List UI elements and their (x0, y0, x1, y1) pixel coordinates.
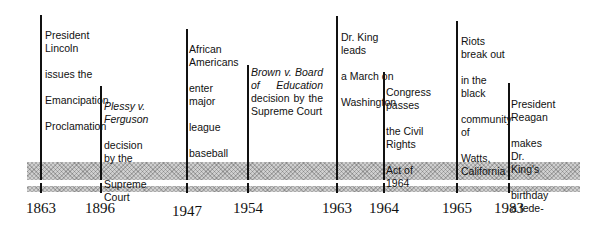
event-stem (186, 29, 188, 180)
label-line: Act of 1964 (386, 164, 431, 190)
case-name: Plessy v. Ferguson (104, 100, 148, 125)
year-tick (383, 183, 385, 193)
event-label: Riots break out in the black community o… (461, 22, 512, 191)
year-tick (186, 183, 188, 193)
event-stem (40, 15, 42, 180)
label-line: issues the (45, 68, 109, 81)
year-tick (508, 183, 510, 193)
label-line: Dr. King leads (341, 31, 396, 57)
event-label: Brown v. Board of Education decision by … (251, 66, 323, 118)
event-label: African Americans enter major league bas… (189, 30, 239, 173)
label-line: league (189, 121, 239, 134)
event-label: Congress passes the Civil Rights Act of … (386, 73, 431, 203)
year-label: 1947 (172, 203, 202, 219)
label-line: makes Dr. King's (511, 137, 555, 176)
label-line: African Americans (189, 43, 239, 69)
label-line: enter major (189, 82, 239, 108)
year-tick (40, 183, 42, 193)
year-label: 1983 (494, 200, 524, 216)
label-line: in the black (461, 74, 512, 100)
label-line: the Civil Rights (386, 125, 431, 151)
event-stem (336, 16, 338, 180)
year-tick (100, 183, 102, 193)
year-label: 1965 (442, 200, 472, 216)
label-line: Riots break out (461, 35, 512, 61)
label-line: community of (461, 113, 512, 139)
label-line: President Lincoln (45, 29, 109, 55)
case-name-cont: Education (276, 79, 323, 91)
year-tick (336, 183, 338, 193)
year-label: 1964 (369, 200, 399, 216)
year-label: 1954 (233, 200, 263, 216)
event-label: Plessy v. Ferguson decision by the Supre… (104, 87, 148, 217)
label-line: Congress passes (386, 86, 431, 112)
event-stem (247, 65, 249, 180)
year-label: 1863 (26, 200, 56, 216)
label-line: decision by the (104, 139, 148, 165)
label-line: President Reagan (511, 98, 555, 124)
event-stem (100, 86, 102, 180)
year-label: 1896 (85, 200, 115, 216)
event-stem (456, 21, 458, 180)
year-tick (247, 183, 249, 193)
event-stem (508, 83, 510, 180)
event-stem (383, 72, 385, 180)
label-line: baseball (189, 147, 239, 160)
label-line: Watts, California (461, 152, 512, 178)
label-text: decision by the Supreme Court (251, 92, 323, 117)
year-label: 1963 (322, 200, 352, 216)
year-tick (456, 183, 458, 193)
